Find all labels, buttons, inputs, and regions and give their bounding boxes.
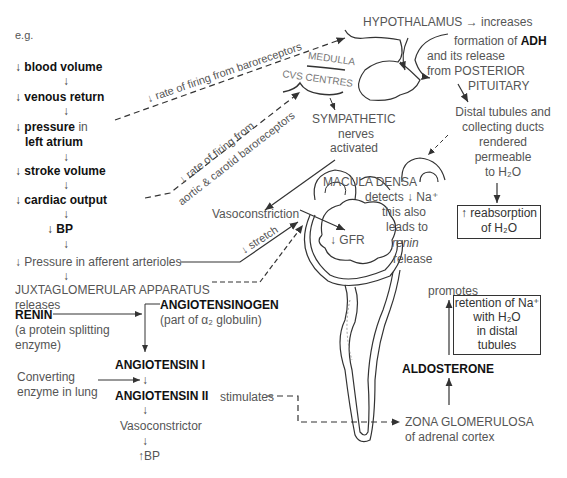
detects-label: detects ↓ Na⁺ — [365, 190, 438, 204]
venous-return-label: venous return — [24, 90, 104, 104]
stroke-volume: ↓ stroke volume — [15, 164, 106, 178]
cardiac-output-label: cardiac output — [24, 193, 107, 207]
down-arrow-icon: ↓ — [63, 178, 69, 192]
down-arrow-icon: ↓ — [142, 373, 148, 387]
reabsorption-line-1: ↑ reabsorption — [458, 206, 540, 221]
gfr-label: ↓ GFR — [330, 233, 365, 247]
adh-label: ADH — [521, 34, 547, 48]
renin-desc-1: (a protein splitting — [15, 323, 110, 337]
eg-label: e.g. — [15, 28, 33, 42]
angiotensinogen-desc: (part of α₂ globulin) — [160, 313, 262, 327]
distal-2: collecting ducts — [448, 120, 558, 134]
vasoconstriction-label: Vasoconstriction — [212, 207, 299, 221]
down-arrow-icon: ↓ — [15, 90, 21, 104]
blood-volume-label: blood volume — [24, 60, 102, 74]
down-arrow-icon: ↓ — [15, 60, 21, 74]
down-arrow-icon: ↓ — [63, 237, 69, 251]
down-arrow-icon: ↓ — [63, 150, 69, 164]
pressure-label: pressure — [24, 120, 75, 134]
sympathetic-label: SYMPATHETIC — [312, 112, 396, 126]
retention-line-2: with H₂O — [454, 310, 540, 324]
pituitary-label: PITUITARY — [468, 79, 530, 93]
jga-label: JUXTAGLOMERULAR APPARATUS — [15, 283, 210, 297]
renin-desc-2: enzyme) — [15, 338, 61, 352]
reabsorption-line-2: of H₂O — [458, 221, 540, 236]
down-arrow-icon: ↓ — [63, 269, 69, 283]
venous-return: ↓ venous return — [15, 90, 104, 104]
cardiac-output: ↓ cardiac output — [15, 193, 107, 207]
release-label-2: from POSTERIOR — [427, 64, 525, 78]
bp-up-label: ↑BP — [138, 449, 160, 463]
angiotensin-1-label: ANGIOTENSIN I — [115, 358, 205, 372]
renin-label: RENIN — [15, 308, 52, 322]
distal-1: Distal tubules and — [448, 105, 558, 119]
down-arrow-icon: ↓ — [15, 120, 21, 134]
zona-label-1: ZONA GLOMERULOSA — [405, 415, 534, 429]
also-label-1: this also — [382, 205, 426, 219]
stimulates-label: stimulates — [220, 390, 274, 404]
zona-label-2: of adrenal cortex — [405, 430, 494, 444]
reabsorption-box: ↑ reabsorption of H₂O — [457, 205, 541, 239]
release-label-1: and its release — [427, 49, 505, 63]
pressure-left-atrium: ↓ pressure in — [15, 120, 88, 134]
macula-densa-label: MACULA DENSA — [323, 175, 417, 189]
hypothalamus-label: HYPOTHALAMUS → increases — [363, 15, 532, 29]
down-arrow-icon: ↓ — [63, 207, 69, 221]
retention-line-3: in distal — [454, 324, 540, 338]
down-arrow-icon: ↓ — [63, 74, 69, 88]
down-arrow-icon: ↓ — [15, 193, 21, 207]
converting-label-2: enzyme in lung — [17, 385, 98, 399]
converting-label-1: Converting — [17, 370, 75, 384]
retention-box: retention of Na⁺ with H₂O in distal tubu… — [453, 295, 541, 355]
vasoconstrictor-label: Vasoconstrictor — [120, 419, 202, 433]
aldosterone-label: ALDOSTERONE — [402, 362, 494, 376]
down-arrow-icon: ↓ — [47, 222, 53, 236]
also-label-3: renin — [392, 236, 419, 250]
down-arrow-icon: ↓ — [142, 434, 148, 448]
afferent-pressure: ↓ Pressure in afferent arterioles — [15, 255, 182, 269]
bp-label: BP — [56, 222, 73, 236]
stroke-volume-label: stroke volume — [24, 164, 105, 178]
left-atrium-label: left atrium — [25, 135, 83, 149]
formation-text: formation of — [454, 34, 521, 48]
down-arrow-icon: ↓ — [142, 403, 148, 417]
nerves-label: nerves — [338, 127, 374, 141]
distal-5: to H₂O — [448, 165, 558, 179]
retention-line-4: tubules — [454, 338, 540, 352]
also-label-2: leads to — [386, 220, 428, 234]
distal-4: permeable — [448, 150, 558, 164]
distal-3: rendered — [448, 135, 558, 149]
also-label-4: release — [393, 252, 432, 266]
down-arrow-icon: ↓ — [15, 164, 21, 178]
angiotensinogen-label: ANGIOTENSINOGEN — [160, 298, 279, 312]
retention-line-1: retention of Na⁺ — [454, 296, 540, 310]
activated-label: activated — [330, 141, 378, 155]
down-arrow-icon: ↓ — [63, 104, 69, 118]
in-label: in — [75, 120, 88, 134]
bp-down: ↓ BP — [47, 222, 73, 236]
blood-volume: ↓ blood volume — [15, 60, 102, 74]
formation-label: formation of ADH — [454, 34, 547, 48]
angiotensin-2-label: ANGIOTENSIN II — [115, 389, 208, 403]
